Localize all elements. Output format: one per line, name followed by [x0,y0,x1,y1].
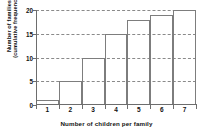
plot-area: 05101520 1234567 [36,10,196,105]
y-tick-label-0: 0 [29,102,33,109]
bar-3 [82,58,105,106]
bar-5 [127,20,150,106]
x-tick-mark-7 [196,104,197,109]
y-tick-label-15: 15 [26,30,33,37]
x-tick-label-3: 3 [91,106,95,113]
x-axis-line [36,104,196,105]
bar-6 [150,15,173,105]
bar-7 [173,10,196,105]
x-tick-label-6: 6 [160,106,164,113]
bar-4 [105,34,128,105]
x-tick-label-5: 5 [137,106,141,113]
x-tick-label-4: 4 [114,106,118,113]
y-tick-label-5: 5 [29,78,33,85]
y-axis-line [36,10,37,105]
gridline-20 [36,10,196,11]
x-axis-title: Number of children per family [0,120,213,127]
x-tick-label-2: 2 [68,106,72,113]
y-tick-label-10: 10 [26,54,33,61]
x-tick-label-7: 7 [183,106,187,113]
cumulative-frequency-chart: Number of families (cumulative frequency… [0,0,213,133]
bar-2 [59,81,82,105]
x-tick-label-1: 1 [46,106,50,113]
y-tick-label-20: 20 [26,7,33,14]
y-axis-title: Number of families (cumulative frequency… [2,0,24,74]
y-axis-title-line2: (cumulative frequency) [13,0,19,58]
